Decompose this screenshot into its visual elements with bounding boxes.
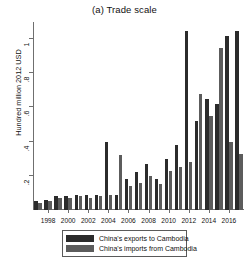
plot-area: .2.4.6.81 199820002002200420062008201020… (33, 22, 244, 210)
legend-item-exports: China's exports to Cambodia (66, 234, 183, 243)
bar-exports-2001 (75, 195, 78, 210)
bar-imports-1999 (58, 198, 61, 210)
x-tick-label: 2002 (81, 217, 96, 224)
x-tick-label: 2006 (121, 217, 136, 224)
bar-exports-2014 (205, 99, 208, 210)
x-tick-label: 2012 (181, 217, 196, 224)
chart-title: (a) Trade scale (0, 4, 249, 15)
legend-swatch-exports-icon (66, 235, 94, 242)
bar-exports-1998 (44, 200, 47, 210)
y-tick (29, 175, 33, 176)
bar-exports-2013 (195, 121, 198, 210)
bar-exports-2004 (105, 142, 108, 210)
x-tick-label: 2014 (201, 217, 216, 224)
bar-imports-2013 (199, 94, 202, 210)
bar-imports-1998 (48, 201, 51, 210)
x-tick-label: 2016 (222, 217, 237, 224)
bar-exports-2003 (95, 195, 98, 210)
bar-exports-1997 (34, 201, 37, 210)
x-tick (68, 210, 69, 213)
x-tick (209, 210, 210, 213)
bar-exports-2010 (165, 159, 168, 210)
x-tick-label: 2010 (161, 217, 176, 224)
bar-imports-2007 (139, 183, 142, 210)
bar-exports-2002 (85, 195, 88, 210)
y-tick (29, 106, 33, 107)
x-tick (128, 210, 129, 213)
bar-exports-2009 (155, 179, 158, 210)
bar-imports-2016 (229, 142, 232, 210)
legend-swatch-imports-icon (66, 245, 94, 252)
bar-exports-1999 (54, 196, 57, 210)
bar-exports-2016 (225, 36, 228, 210)
y-axis-line (33, 22, 34, 210)
bar-exports-2011 (175, 145, 178, 210)
y-tick (29, 72, 33, 73)
x-tick-label: 2000 (61, 217, 76, 224)
bar-imports-2001 (79, 196, 82, 210)
bar-imports-2008 (149, 176, 152, 210)
bar-exports-2000 (64, 196, 67, 210)
bar-exports-2005 (115, 195, 118, 210)
legend-item-imports: China's imports from Cambodia (66, 244, 183, 253)
bar-imports-2011 (179, 167, 182, 210)
x-tick (88, 210, 89, 213)
bar-imports-2004 (109, 195, 112, 210)
bar-imports-2012 (189, 162, 192, 210)
y-tick (29, 38, 33, 39)
y-tick-label: .8 (24, 77, 31, 83)
bar-exports-2015 (215, 104, 218, 210)
y-axis-label: Hundred million 2012 USD (14, 18, 23, 168)
bar-exports-2012 (185, 31, 188, 210)
bar-imports-2006 (129, 186, 132, 210)
y-tick-label: .6 (24, 111, 31, 117)
x-tick (48, 210, 49, 213)
bar-exports-2007 (135, 172, 138, 210)
bar-exports-2006 (125, 179, 128, 210)
legend-label-exports: China's exports to Cambodia (99, 235, 189, 242)
x-tick (108, 210, 109, 213)
x-tick (149, 210, 150, 213)
y-tick (29, 141, 33, 142)
bar-imports-2000 (68, 198, 71, 210)
y-tick-label: .4 (24, 145, 31, 151)
legend-label-imports: China's imports from Cambodia (99, 245, 197, 252)
x-tick (169, 210, 170, 213)
y-tick-label: .2 (24, 179, 31, 185)
bar-exports-2008 (145, 164, 148, 210)
bar-imports-2002 (89, 198, 92, 210)
y-tick-label: 1 (24, 43, 31, 47)
x-tick-label: 2008 (141, 217, 156, 224)
chart-legend: China's exports to Cambodia China's impo… (62, 230, 187, 257)
bar-imports-1997 (38, 203, 41, 210)
bar-exports-2017 (235, 31, 238, 210)
x-tick-label: 1998 (41, 217, 56, 224)
bar-imports-2010 (169, 171, 172, 210)
bar-imports-2014 (209, 116, 212, 210)
bar-imports-2015 (219, 48, 222, 210)
bar-imports-2017 (239, 154, 242, 210)
bar-imports-2003 (99, 196, 102, 210)
x-tick (229, 210, 230, 213)
bar-imports-2005 (119, 155, 122, 210)
x-tick (189, 210, 190, 213)
x-tick-label: 2004 (101, 217, 116, 224)
bar-imports-2009 (159, 184, 162, 210)
